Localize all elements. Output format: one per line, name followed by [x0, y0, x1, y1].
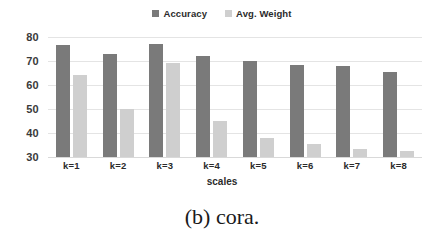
x-axis-tick-k=7: k=7: [329, 160, 376, 171]
x-axis-tick-k=8: k=8: [375, 160, 422, 171]
bar-accuracy-k=6: [290, 65, 304, 157]
y-axis-tick-30: 30: [26, 151, 39, 163]
bar-avg-weight-k=7: [353, 149, 367, 157]
bar-avg-weight-k=1: [73, 75, 87, 157]
bar-accuracy-k=2: [103, 54, 117, 157]
bar-group-k=5: [235, 37, 282, 157]
legend-swatch-avg-weight: [225, 10, 232, 17]
bar-group-k=2: [95, 37, 142, 157]
bar-avg-weight-k=3: [166, 63, 180, 157]
bar-avg-weight-k=8: [400, 151, 414, 157]
x-axis-title: scales: [0, 176, 444, 187]
legend-entry-avg-weight: Avg. Weight: [225, 8, 291, 19]
legend-label-accuracy: Accuracy: [163, 8, 207, 19]
bar-accuracy-k=1: [56, 45, 70, 157]
bar-accuracy-k=3: [149, 44, 163, 157]
x-axis-tick-k=4: k=4: [188, 160, 235, 171]
y-axis-tick-40: 40: [26, 127, 39, 139]
bar-avg-weight-k=5: [260, 138, 274, 157]
bar-accuracy-k=5: [243, 61, 257, 157]
legend-entry-accuracy: Accuracy: [152, 8, 207, 19]
x-axis-tick-k=2: k=2: [95, 160, 142, 171]
bar-group-k=1: [48, 37, 95, 157]
x-axis-tick-k=1: k=1: [48, 160, 95, 171]
x-axis: k=1k=2k=3k=4k=5k=6k=7k=8: [48, 160, 422, 171]
legend-label-avg-weight: Avg. Weight: [236, 8, 291, 19]
chart-legend: Accuracy Avg. Weight: [0, 8, 444, 19]
bar-group-k=8: [375, 37, 422, 157]
bar-avg-weight-k=6: [307, 144, 321, 157]
x-axis-tick-k=3: k=3: [142, 160, 189, 171]
bar-group-k=7: [329, 37, 376, 157]
x-axis-tick-k=5: k=5: [235, 160, 282, 171]
bar-groups: [48, 37, 422, 157]
legend-swatch-accuracy: [152, 10, 159, 17]
bar-accuracy-k=4: [196, 56, 210, 157]
figure-cora: Accuracy Avg. Weight 807060504030 k=1k=2…: [0, 0, 444, 250]
y-axis: 807060504030: [0, 37, 44, 157]
bar-accuracy-k=8: [383, 72, 397, 157]
bar-group-k=4: [188, 37, 235, 157]
gridline-30: [48, 157, 422, 158]
bar-group-k=6: [282, 37, 329, 157]
bar-avg-weight-k=4: [213, 121, 227, 157]
y-axis-tick-60: 60: [26, 79, 39, 91]
bar-group-k=3: [142, 37, 189, 157]
bar-accuracy-k=7: [336, 66, 350, 157]
bar-avg-weight-k=2: [120, 109, 134, 157]
x-axis-tick-k=6: k=6: [282, 160, 329, 171]
y-axis-tick-80: 80: [26, 31, 39, 43]
y-axis-tick-50: 50: [26, 103, 39, 115]
figure-caption: (b) cora.: [0, 204, 444, 230]
plot-area: [48, 37, 422, 157]
y-axis-tick-70: 70: [26, 55, 39, 67]
